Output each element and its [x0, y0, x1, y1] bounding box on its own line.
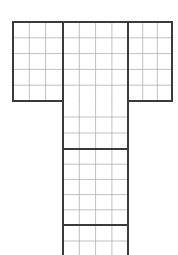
figure-canvas: [0, 0, 178, 255]
t-shaped-grid: [0, 0, 178, 255]
